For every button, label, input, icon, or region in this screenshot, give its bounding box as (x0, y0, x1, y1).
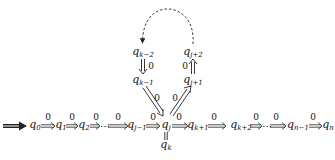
edge-label: 0 (150, 113, 156, 122)
edge-label: 0 (182, 62, 188, 71)
edge-label: 0 (45, 113, 51, 122)
edge-label: 0 (172, 94, 178, 103)
edge-label: 0 (253, 113, 259, 122)
state-qn: qn (322, 119, 334, 134)
double-arrow-down-icon (139, 59, 147, 74)
diagram-edges (0, 0, 335, 160)
edge-label: 0 (310, 113, 316, 122)
state-q0: q0 (29, 119, 41, 134)
double-arrow-right-icon (66, 123, 78, 130)
ellipsis-left: ⋯ (100, 122, 109, 132)
state-qk: qk (160, 139, 171, 154)
double-arrow-right-icon (309, 123, 322, 130)
double-arrow-right-icon (90, 123, 100, 130)
double-arrow-right-icon (108, 123, 128, 130)
double-arrow-right-icon (270, 123, 286, 130)
double-arrow-right-icon (146, 123, 160, 130)
state-qj+1: qj+1 (183, 74, 203, 89)
state-qk-2: qk−2 (132, 46, 154, 61)
state-q2: q2 (78, 119, 90, 134)
start-arrow-icon (3, 122, 27, 131)
dashed-loop-arrow-icon (143, 9, 194, 44)
edge-label: 0 (93, 113, 99, 122)
edge-label: 0 (69, 113, 75, 122)
edge-label: 0 (211, 113, 217, 122)
double-arrow-right-icon (41, 123, 55, 130)
double-arrow-right-icon (172, 123, 188, 130)
state-diagram: q0 q1 q2 ⋯ qj−1 qj qk+1 qk+2 ⋯ qn−1 qn q… (0, 0, 335, 160)
ellipsis-right: ⋯ (262, 122, 271, 132)
state-qk+2: qk+2 (230, 119, 252, 134)
edge-label: 0 (273, 113, 279, 122)
edge-label: 0 (154, 94, 160, 103)
edge-label: 0 (176, 113, 182, 122)
edge-label: 0 (115, 113, 121, 122)
state-qn-1: qn−1 (287, 119, 309, 134)
state-qk+1: qk+1 (187, 119, 209, 134)
state-qj: qj (161, 119, 170, 134)
state-qj-1: qj−1 (127, 119, 147, 134)
state-q1: q1 (55, 119, 67, 134)
state-qk-1: qk−1 (132, 74, 154, 89)
double-arrow-right-icon (208, 123, 226, 130)
edge-label: 0 (148, 62, 154, 71)
state-qj+2: qj+2 (183, 46, 203, 61)
